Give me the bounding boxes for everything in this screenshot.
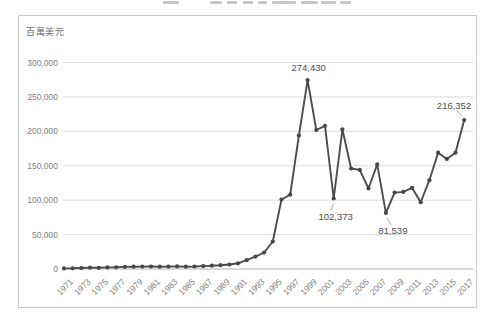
x-tick-label: 1977 [107, 276, 128, 297]
data-point-marker [149, 264, 153, 268]
data-point-marker [358, 168, 362, 172]
data-point-marker [297, 133, 301, 137]
data-point-marker [114, 265, 118, 269]
annotation-leader-line [331, 204, 334, 211]
annotation-label: 81,539 [378, 225, 407, 236]
x-tick-label: 1989 [211, 276, 232, 297]
data-point-marker [219, 263, 223, 267]
data-point-marker [401, 190, 405, 194]
data-point-marker [323, 124, 327, 128]
x-tick-label: 1983 [159, 276, 180, 297]
annotation-label: 216,352 [437, 100, 471, 111]
data-point-marker [340, 127, 344, 131]
trade-volume-line-chart: 050,000100,000150,000200,000250,000300,0… [0, 0, 495, 324]
data-point-marker [192, 264, 196, 268]
data-point-marker [201, 264, 205, 268]
data-point-marker [140, 265, 144, 269]
x-tick-label: 1971 [55, 276, 76, 297]
data-point-marker [453, 151, 457, 155]
data-point-marker [97, 266, 101, 270]
data-point-marker [314, 128, 318, 132]
data-point-marker [62, 266, 66, 270]
data-point-marker [236, 261, 240, 265]
y-tick-label: 100,000 [27, 195, 58, 205]
x-tick-label: 1973 [72, 276, 93, 297]
data-point-marker [419, 200, 423, 204]
y-tick-label: 150,000 [27, 161, 58, 171]
data-point-marker [436, 151, 440, 155]
y-tick-label: 200,000 [27, 126, 58, 136]
data-point-marker [366, 186, 370, 190]
data-line [64, 80, 464, 268]
x-tick-label: 1999 [298, 276, 319, 297]
data-point-marker [375, 162, 379, 166]
x-tick-label: 1993 [246, 276, 267, 297]
data-point-marker [279, 197, 283, 201]
x-tick-label: 1987 [194, 276, 215, 297]
data-point-marker [410, 186, 414, 190]
data-point-marker [245, 258, 249, 262]
y-tick-label: 0 [53, 264, 58, 274]
x-tick-label: 1975 [89, 276, 110, 297]
data-point-marker [332, 196, 336, 200]
x-tick-label: 1979 [124, 276, 145, 297]
x-tick-label: 2015 [437, 276, 458, 297]
x-tick-label: 2009 [385, 276, 406, 297]
y-tick-label: 50,000 [32, 230, 58, 240]
y-tick-label: 300,000 [27, 58, 58, 68]
x-tick-label: 2013 [420, 276, 441, 297]
annotation-label: 102,373 [319, 211, 353, 222]
data-point-marker [71, 266, 75, 270]
data-point-marker [306, 78, 310, 82]
annotation-leader-line [457, 111, 462, 116]
x-tick-label: 1995 [263, 276, 284, 297]
data-point-marker [132, 265, 136, 269]
data-point-marker [253, 255, 257, 259]
data-point-marker [79, 266, 83, 270]
data-point-marker [158, 265, 162, 269]
x-tick-label: 1991 [229, 276, 250, 297]
data-point-marker [445, 157, 449, 161]
data-point-marker [184, 265, 188, 269]
x-tick-label: 2003 [333, 276, 354, 297]
x-tick-label: 2017 [455, 276, 476, 297]
data-point-marker [166, 265, 170, 269]
x-tick-label: 1985 [176, 276, 197, 297]
x-tick-label: 2005 [350, 276, 371, 297]
data-point-marker [349, 166, 353, 170]
chart-page: 百萬美元 050,000100,000150,000200,000250,000… [0, 0, 495, 324]
data-point-marker [271, 239, 275, 243]
annotation-leader-line [387, 218, 391, 225]
data-point-marker [384, 211, 388, 215]
data-point-marker [210, 264, 214, 268]
data-point-marker [262, 250, 266, 254]
data-point-marker [105, 265, 109, 269]
annotation-label: 274,430 [291, 62, 325, 73]
x-tick-label: 1997 [281, 276, 302, 297]
x-tick-label: 1981 [142, 276, 163, 297]
data-point-marker [427, 178, 431, 182]
x-tick-label: 2011 [403, 277, 423, 297]
y-tick-label: 250,000 [27, 92, 58, 102]
data-point-marker [88, 266, 92, 270]
x-tick-label: 2001 [316, 276, 337, 297]
data-point-marker [227, 262, 231, 266]
data-point-marker [288, 193, 292, 197]
data-point-marker [123, 265, 127, 269]
x-tick-label: 2007 [368, 276, 389, 297]
data-point-marker [175, 264, 179, 268]
data-point-marker [393, 191, 397, 195]
data-point-marker [462, 118, 466, 122]
